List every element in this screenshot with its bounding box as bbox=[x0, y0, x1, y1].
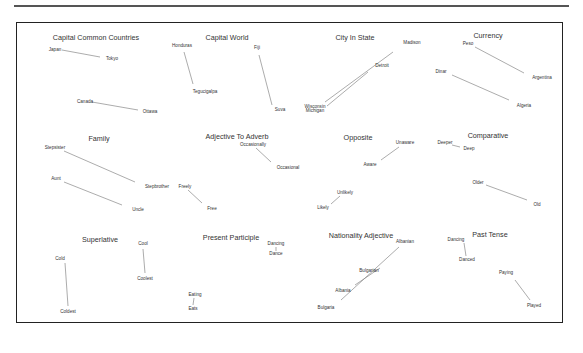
connector-line bbox=[259, 55, 272, 105]
word-label: Fiji bbox=[254, 45, 260, 50]
connector-line bbox=[331, 196, 340, 204]
connector-line bbox=[464, 243, 466, 256]
word-label: Occasionally bbox=[240, 142, 266, 147]
connector-line bbox=[486, 185, 527, 200]
word-label: Uncle bbox=[132, 207, 144, 212]
word-label: Dance bbox=[269, 251, 282, 256]
word-label: Dancing bbox=[268, 241, 285, 246]
group-title: Family bbox=[88, 134, 109, 143]
word-label: Madison bbox=[403, 40, 420, 45]
word-label: Stepsister bbox=[45, 145, 65, 150]
word-label: Albania bbox=[335, 288, 350, 293]
connector-line bbox=[515, 280, 530, 300]
word-label: Unlikely bbox=[337, 190, 353, 195]
word-label: Eating bbox=[188, 292, 201, 297]
group-title: City In State bbox=[335, 33, 374, 42]
connector-line bbox=[92, 102, 138, 110]
word-label: Likely bbox=[317, 205, 329, 210]
word-label: Canada bbox=[77, 99, 93, 104]
group-title: Superlative bbox=[82, 235, 118, 244]
word-label: Stepbrother bbox=[145, 184, 169, 189]
word-label: Japan bbox=[49, 47, 62, 52]
connector-line bbox=[325, 52, 393, 102]
word-label: Deep bbox=[464, 146, 475, 151]
word-label: Old bbox=[533, 202, 540, 207]
word-label: Aware bbox=[364, 162, 377, 167]
connector-line bbox=[143, 249, 145, 273]
word-label: Peso bbox=[463, 41, 473, 46]
group-title: Opposite bbox=[344, 133, 373, 142]
word-label: Tegucigalpa bbox=[193, 89, 218, 94]
word-label: Played bbox=[527, 303, 541, 308]
connector-line bbox=[475, 47, 524, 73]
connector-line bbox=[381, 147, 399, 160]
word-label: Aunt bbox=[51, 176, 60, 181]
group-title: Past Tense bbox=[472, 230, 507, 239]
connector-line bbox=[256, 148, 271, 162]
word-label: Detroit bbox=[375, 63, 389, 68]
word-label: Michigan bbox=[306, 108, 324, 113]
word-label: Coolest bbox=[137, 276, 153, 281]
word-label: Freely bbox=[179, 184, 192, 189]
word-label: Danced bbox=[459, 257, 475, 262]
word-label: Cold bbox=[55, 256, 64, 261]
word-label: Bulgaria bbox=[318, 305, 335, 310]
group-title: Present Participle bbox=[203, 233, 259, 242]
word-label: Honduras bbox=[172, 43, 192, 48]
group-title: Capital World bbox=[205, 33, 248, 42]
word-label: Tokyo bbox=[106, 56, 118, 61]
word-label: Dancing bbox=[448, 237, 465, 242]
group-title: Capital Common Countries bbox=[53, 33, 139, 42]
group-title: Currency bbox=[473, 31, 502, 40]
connector-line bbox=[188, 190, 202, 203]
group-title: Adjective To Adverb bbox=[206, 132, 269, 141]
word-label: Older bbox=[472, 180, 483, 185]
connector-lines bbox=[0, 0, 583, 353]
connector-line bbox=[452, 75, 509, 100]
word-label: Free bbox=[207, 206, 216, 211]
connector-line bbox=[64, 151, 135, 182]
word-label: Unaware bbox=[396, 140, 414, 145]
word-label: Algeria bbox=[517, 103, 531, 108]
group-title: Nationality Adjective bbox=[329, 231, 393, 240]
connector-line bbox=[327, 72, 368, 106]
word-label: Bulgarian bbox=[359, 268, 378, 273]
connector-line bbox=[65, 263, 68, 306]
word-label: Deeper bbox=[437, 140, 452, 145]
word-label: Ottawa bbox=[143, 109, 158, 114]
group-title: Comparative bbox=[468, 131, 509, 140]
word-label: Suva bbox=[275, 107, 285, 112]
connector-line bbox=[452, 145, 460, 147]
word-label: Coldest bbox=[60, 309, 76, 314]
word-label: Dinar bbox=[436, 69, 447, 74]
word-label: Albanian bbox=[396, 239, 414, 244]
word-label: Cool bbox=[138, 241, 147, 246]
connector-line bbox=[62, 50, 100, 57]
word-label: Argentina bbox=[532, 75, 552, 80]
connector-line bbox=[64, 182, 122, 205]
connector-line bbox=[184, 52, 193, 84]
word-label: Paying bbox=[499, 270, 513, 275]
connector-line bbox=[193, 298, 194, 305]
word-label: Eats bbox=[188, 306, 197, 311]
word-label: Occasional bbox=[277, 165, 300, 170]
